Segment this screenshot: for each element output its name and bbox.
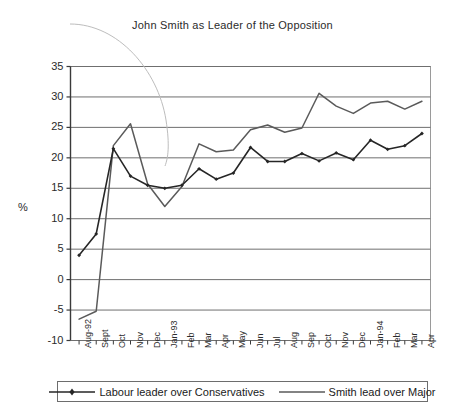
legend-label-labour: Labour leader over Conservatives [99,386,264,398]
x-axis-tick-label: Nov [340,331,350,347]
x-axis-tick-label: Sept [100,329,110,348]
x-axis-tick-label: Mar [203,332,213,348]
x-axis-tick-label: Jan-93 [169,320,179,348]
x-axis-tick-label: Jun [255,333,265,348]
x-axis-tick-label: Apr [220,333,230,347]
chart-container: John Smith as Leader of the Opposition %… [0,0,465,417]
legend-swatch-smith-icon [279,387,325,397]
y-axis-tick-label: 20 [51,151,63,163]
legend-label-smith: Smith lead over Major [329,386,436,398]
y-axis-tick-label: 25 [51,120,63,132]
x-axis-tick-label: Apr [426,333,436,347]
chart-plot-svg [0,0,465,417]
legend-swatch-labour-icon [49,387,95,397]
x-axis-tick-label: Feb [392,332,402,348]
chart-legend: Labour leader over Conservatives Smith l… [57,381,428,402]
x-axis-tick-label: Dec [357,331,367,347]
y-axis-tick-label: 35 [51,60,63,72]
legend-entry-labour[interactable]: Labour leader over Conservatives [49,386,264,398]
plot-area-frame [71,67,431,341]
x-axis-tick-label: Jan-94 [375,320,385,348]
y-axis-tick-label: 30 [51,90,63,102]
x-axis-tick-label: Mar [409,332,419,348]
y-axis-tick-label: 15 [51,181,63,193]
x-axis-tick-label: Sep [306,331,316,347]
y-axis-tick-label: 0 [57,273,63,285]
x-axis-tick-label: Feb [186,332,196,348]
y-axis-tick-label: 5 [57,242,63,254]
x-axis-tick-label: Dec [152,331,162,347]
y-axis-tick-label: 10 [51,212,63,224]
legend-entry-smith[interactable]: Smith lead over Major [279,386,436,398]
y-axis-tick-label: -10 [48,334,64,346]
x-axis-tick-label: Aug-92 [83,318,93,347]
x-axis-tick-label: Oct [117,333,127,347]
x-axis-tick-label: Jul [272,336,282,348]
y-axis-tick-label: -5 [54,303,64,315]
x-axis-tick-label: Oct [323,333,333,347]
x-axis-tick-label: Nov [135,331,145,347]
x-axis-tick-label: Aug [289,331,299,347]
x-axis-tick-label: May [237,330,247,347]
